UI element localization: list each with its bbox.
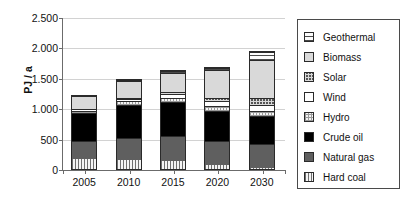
bar-segment-2015-crude-oil[interactable]	[161, 102, 185, 136]
biomass-swatch	[304, 52, 314, 62]
chart-legend: GeothermalBiomassSolarWindHydroCrude oil…	[297, 19, 400, 189]
legend-item-natural-gas[interactable]: Natural gas	[298, 147, 399, 167]
bar-segment-2010-biomass[interactable]	[117, 81, 141, 98]
y-tick-label-500: 500	[6, 134, 58, 146]
legend-item-hydro[interactable]: Hydro	[298, 107, 399, 127]
legend-label-solar: Solar	[323, 72, 346, 83]
bar-segment-2005-biomass[interactable]	[72, 96, 96, 109]
legend-label-hydro: Hydro	[323, 112, 350, 123]
bar-series-container	[62, 18, 284, 170]
legend-label-wind: Wind	[323, 92, 346, 103]
bar-segment-2030-hard-coal[interactable]	[250, 168, 274, 169]
legend-label-geothermal: Geothermal	[323, 32, 375, 43]
bar-segment-2030-geothermal[interactable]	[250, 52, 274, 60]
hard-coal-swatch	[304, 172, 314, 182]
bar-segment-2010-natural-gas[interactable]	[117, 138, 141, 160]
legend-item-wind[interactable]: Wind	[298, 87, 399, 107]
bar-segment-2030-biomass[interactable]	[250, 60, 274, 98]
bar-segment-2010-crude-oil[interactable]	[117, 105, 141, 138]
bar-2020[interactable]	[204, 67, 230, 170]
bar-segment-2020-hard-coal[interactable]	[205, 165, 229, 169]
bar-segment-2030-solar[interactable]	[250, 98, 274, 105]
bar-2010[interactable]	[116, 79, 142, 170]
bar-segment-2015-biomass[interactable]	[161, 73, 185, 92]
x-axis-tick-labels: 20052010201520202030	[62, 174, 284, 192]
legend-label-crude-oil: Crude oil	[323, 132, 363, 143]
bar-2005[interactable]	[71, 95, 97, 170]
bar-segment-2005-crude-oil[interactable]	[72, 113, 96, 141]
bar-segment-2005-hard-coal[interactable]	[72, 159, 96, 169]
legend-label-hard-coal: Hard coal	[323, 172, 366, 183]
natural-gas-swatch	[304, 152, 314, 162]
y-tick-label-1000: 1.000	[6, 103, 58, 115]
bar-segment-2020-crude-oil[interactable]	[205, 111, 229, 142]
x-tick-label-2020: 2020	[206, 176, 229, 188]
bar-2015[interactable]	[160, 70, 186, 170]
stacked-bar-chart: PJ / a 05001.0001.5002.0002.500 20052010…	[0, 0, 407, 206]
y-tick-label-2000: 2.000	[6, 42, 58, 54]
x-tick-label-2010: 2010	[117, 176, 140, 188]
legend-item-crude-oil[interactable]: Crude oil	[298, 127, 399, 147]
legend-item-hard-coal[interactable]: Hard coal	[298, 167, 399, 187]
bar-segment-2020-biomass[interactable]	[205, 70, 229, 98]
y-tick-label-2500: 2.500	[6, 12, 58, 24]
bar-2030[interactable]	[249, 51, 275, 170]
bar-segment-2015-natural-gas[interactable]	[161, 136, 185, 161]
solar-swatch	[304, 72, 314, 82]
x-tick-label-2030: 2030	[250, 176, 273, 188]
x-axis-boundary-tick-1	[285, 170, 286, 174]
bar-segment-2010-hard-coal[interactable]	[117, 160, 141, 169]
crude-oil-swatch	[304, 132, 314, 142]
bar-segment-2015-hard-coal[interactable]	[161, 161, 185, 169]
hydro-swatch	[304, 112, 314, 122]
y-axis-tick-labels: 05001.0001.5002.0002.500	[0, 18, 58, 170]
bar-segment-2020-natural-gas[interactable]	[205, 141, 229, 165]
legend-label-natural-gas: Natural gas	[323, 152, 374, 163]
geothermal-swatch	[304, 32, 314, 42]
legend-item-geothermal[interactable]: Geothermal	[298, 27, 399, 47]
x-tick-label-2005: 2005	[73, 176, 96, 188]
y-tick-label-1500: 1.500	[6, 73, 58, 85]
y-tick-label-0: 0	[6, 164, 58, 176]
legend-item-solar[interactable]: Solar	[298, 67, 399, 87]
legend-item-biomass[interactable]: Biomass	[298, 47, 399, 67]
bar-segment-2030-natural-gas[interactable]	[250, 144, 274, 168]
x-tick-label-2015: 2015	[161, 176, 184, 188]
wind-swatch	[304, 92, 314, 102]
bar-segment-2005-natural-gas[interactable]	[72, 141, 96, 159]
legend-label-biomass: Biomass	[323, 52, 361, 63]
bar-segment-2030-crude-oil[interactable]	[250, 116, 274, 144]
